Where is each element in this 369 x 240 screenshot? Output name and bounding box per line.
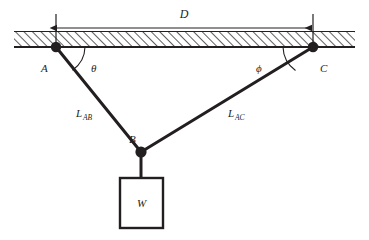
member-base-ac: L bbox=[227, 107, 234, 119]
diagram-canvas: D A C B θ ϕ L AB L bbox=[0, 0, 369, 240]
member-base-ab: L bbox=[75, 107, 82, 119]
node-label-c: C bbox=[320, 62, 328, 74]
node-label-a: A bbox=[40, 62, 48, 74]
angle-arcs-group bbox=[73, 47, 296, 71]
node-b bbox=[135, 146, 146, 157]
member-sub-ac: AC bbox=[234, 113, 246, 122]
weight-label: W bbox=[137, 197, 147, 209]
angle-label-theta: θ bbox=[91, 62, 97, 74]
weight-block-group: W bbox=[120, 178, 163, 228]
member-label-ac: L AC bbox=[227, 107, 246, 122]
dimension-label-d: D bbox=[179, 7, 189, 21]
member-sub-ab: AB bbox=[82, 113, 93, 122]
node-label-b: B bbox=[129, 133, 136, 145]
node-a bbox=[51, 42, 61, 52]
ceiling-group bbox=[14, 31, 355, 47]
nodes-group bbox=[51, 42, 318, 158]
angle-label-phi: ϕ bbox=[256, 62, 262, 74]
statics-diagram: D A C B θ ϕ L AB L bbox=[0, 0, 369, 240]
angle-arc-theta bbox=[73, 47, 86, 70]
ceiling-hatch bbox=[14, 31, 355, 47]
node-c bbox=[308, 42, 318, 52]
member-label-ab: L AB bbox=[75, 107, 93, 122]
